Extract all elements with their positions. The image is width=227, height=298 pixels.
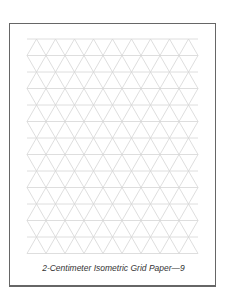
isometric-grid [0,0,227,298]
page-caption: 2-Centimeter Isometric Grid Paper—9 [0,263,227,273]
